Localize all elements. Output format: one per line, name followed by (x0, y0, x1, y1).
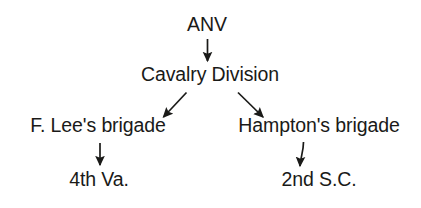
node-hamptons-brigade: Hampton's brigade (238, 116, 399, 136)
org-tree-diagram: ANV Cavalry Division F. Lee's brigade Ha… (0, 0, 421, 208)
node-4th-va: 4th Va. (69, 170, 129, 190)
edge-brigade-right-to-regiment (300, 142, 304, 166)
node-f-lees-brigade: F. Lee's brigade (30, 116, 165, 136)
node-cavalry-division: Cavalry Division (141, 65, 279, 85)
node-anv: ANV (187, 15, 227, 35)
node-2nd-sc: 2nd S.C. (281, 170, 356, 190)
edge-division-to-brigade-left (164, 93, 187, 118)
